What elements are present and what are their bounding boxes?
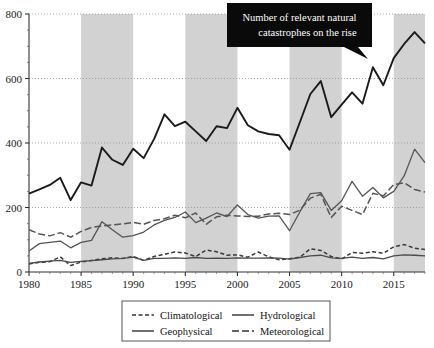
y-tick-label-400: 400 bbox=[6, 137, 23, 149]
x-tick-label-2015: 2015 bbox=[383, 278, 406, 290]
shaded-band-1 bbox=[185, 14, 237, 272]
callout-line-1: Number of relevant natural bbox=[243, 12, 357, 23]
callout-line-2: catastrophes on the rise bbox=[258, 27, 357, 38]
y-tick-label-0: 0 bbox=[17, 266, 23, 278]
x-tick-label-2000: 2000 bbox=[226, 278, 249, 290]
legend-label-climatological: Climatological bbox=[160, 310, 222, 321]
legend-label-hydrological: Hydrological bbox=[260, 310, 315, 321]
y-tick-label-200: 200 bbox=[6, 202, 23, 214]
chart-container: 0200400600800 19801985199019952000200520… bbox=[0, 0, 434, 348]
shaded-bands-group bbox=[81, 14, 425, 272]
x-tick-label-2010: 2010 bbox=[331, 278, 354, 290]
x-tick-labels: 19801985199019952000200520102015 bbox=[18, 278, 405, 290]
y-tick-labels: 0200400600800 bbox=[6, 8, 23, 278]
y-tick-label-800: 800 bbox=[6, 8, 23, 20]
x-tick-label-1995: 1995 bbox=[174, 278, 197, 290]
shaded-band-2 bbox=[290, 14, 342, 272]
x-tick-label-1985: 1985 bbox=[70, 278, 93, 290]
legend-label-meteorological: Meteorological bbox=[260, 326, 324, 337]
x-tick-label-1990: 1990 bbox=[122, 278, 145, 290]
y-tick-label-600: 600 bbox=[6, 73, 23, 85]
x-tick-label-1980: 1980 bbox=[18, 278, 41, 290]
natural-catastrophes-line-chart: 0200400600800 19801985199019952000200520… bbox=[0, 0, 434, 348]
x-tick-label-2005: 2005 bbox=[279, 278, 302, 290]
chart-legend: ClimatologicalHydrologicalGeophysicalMet… bbox=[122, 301, 330, 341]
legend-label-geophysical: Geophysical bbox=[160, 326, 213, 337]
